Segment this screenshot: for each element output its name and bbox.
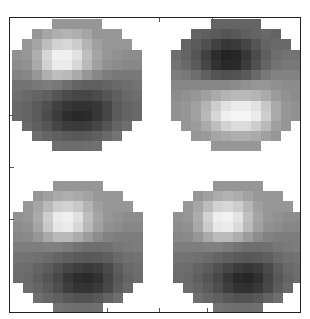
heatmap-cell — [253, 283, 263, 293]
heatmap-cell — [233, 232, 243, 242]
heatmap-cell — [271, 19, 281, 29]
heatmap-cell — [82, 60, 92, 70]
heatmap-cell — [83, 293, 93, 303]
heatmap-cell — [102, 80, 112, 90]
heatmap-cell — [42, 90, 52, 100]
heatmap-cell — [93, 222, 103, 232]
heatmap-cell — [83, 232, 93, 242]
heatmap-cell — [193, 222, 203, 232]
heatmap-cell — [63, 191, 73, 201]
heatmap-cell — [103, 283, 113, 293]
heatmap-cell — [171, 70, 181, 80]
heatmap-cell — [273, 273, 283, 283]
heatmap-cell — [183, 201, 193, 211]
heatmap-cell — [33, 222, 43, 232]
heatmap-cell — [183, 212, 193, 222]
heatmap-cell — [251, 19, 261, 29]
heatmap-cell — [263, 181, 273, 191]
heatmap-cell — [263, 191, 273, 201]
heatmap-cell — [13, 273, 23, 283]
heatmap-cell — [293, 252, 301, 262]
heatmap-cell — [83, 191, 93, 201]
heatmap-cell — [102, 70, 112, 80]
heatmap-cell — [63, 293, 73, 303]
heatmap-cell — [32, 101, 42, 111]
heatmap-cell — [33, 181, 43, 191]
heatmap-cell — [181, 60, 191, 70]
heatmap-cell — [82, 70, 92, 80]
heatmap-cell — [223, 263, 233, 273]
heatmap-cell — [273, 283, 283, 293]
heatmap-cell — [43, 273, 53, 283]
heatmap-cell — [291, 19, 301, 29]
heatmap-cell — [263, 242, 273, 252]
heatmap-cell — [33, 283, 43, 293]
heatmap-cell — [211, 111, 221, 121]
heatmap-cell — [291, 141, 301, 151]
heatmap-cell — [92, 19, 102, 29]
heatmap-cell — [221, 19, 231, 29]
heatmap-cell — [42, 19, 52, 29]
heatmap-cell — [33, 252, 43, 262]
heatmap-cell — [173, 201, 183, 211]
heatmap-cell — [43, 201, 53, 211]
heatmap-cell — [201, 121, 211, 131]
heatmap-cell — [243, 283, 253, 293]
heatmap-cell — [73, 191, 83, 201]
heatmap-cell — [133, 303, 143, 313]
heatmap-cell — [22, 90, 32, 100]
heatmap-cell — [233, 283, 243, 293]
heatmap-cell — [281, 29, 291, 39]
heatmap-cell — [53, 303, 63, 313]
heatmap-cell — [181, 101, 191, 111]
heatmap-cell — [123, 252, 133, 262]
heatmap-cell — [52, 90, 62, 100]
heatmap-cell — [33, 232, 43, 242]
heatmap-cell — [113, 222, 123, 232]
heatmap-cell — [102, 19, 112, 29]
heatmap-cell — [103, 263, 113, 273]
heatmap-cell — [102, 101, 112, 111]
heatmap-cell — [102, 111, 112, 121]
heatmap-cell — [52, 101, 62, 111]
heatmap-cell — [233, 303, 243, 313]
heatmap-cell — [22, 121, 32, 131]
heatmap-cell — [243, 273, 253, 283]
heatmap-cell — [83, 201, 93, 211]
heatmap-cell — [33, 212, 43, 222]
heatmap-cell — [213, 293, 223, 303]
heatmap-cell — [193, 263, 203, 273]
heatmap-cell — [73, 273, 83, 283]
heatmap-cell — [221, 121, 231, 131]
heatmap-cell — [273, 201, 283, 211]
heatmap-cell — [173, 212, 183, 222]
heatmap-cell — [231, 121, 241, 131]
heatmap-cell — [132, 131, 142, 141]
heatmap-cell — [203, 232, 213, 242]
heatmap-cell — [72, 90, 82, 100]
heatmap-cell — [12, 101, 22, 111]
heatmap-cell — [193, 283, 203, 293]
heatmap-cell — [191, 111, 201, 121]
heatmap-cell — [173, 303, 183, 313]
heatmap-cell — [53, 252, 63, 262]
heatmap-cell — [113, 263, 123, 273]
heatmap-cell — [181, 19, 191, 29]
heatmap-cell — [52, 121, 62, 131]
heatmap-cell — [22, 50, 32, 60]
heatmap-cell — [243, 191, 253, 201]
heatmap-cell — [291, 39, 301, 49]
heatmap-cell — [12, 141, 22, 151]
heatmap-cell — [241, 39, 251, 49]
heatmap-cell — [73, 201, 83, 211]
heatmap-cell — [22, 29, 32, 39]
heatmap-cell — [72, 39, 82, 49]
heatmap-cell — [281, 70, 291, 80]
heatmap-cell — [133, 293, 143, 303]
heatmap-cell — [62, 70, 72, 80]
heatmap-cell — [183, 283, 193, 293]
heatmap-cell — [103, 293, 113, 303]
heatmap-cell — [112, 19, 122, 29]
heatmap-cell — [23, 273, 33, 283]
heatmap-cell — [283, 212, 293, 222]
